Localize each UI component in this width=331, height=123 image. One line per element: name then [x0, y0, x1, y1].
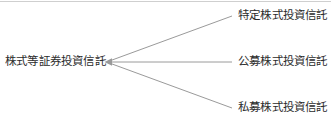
- root-node-label: 株式等証券投資信託: [5, 55, 106, 68]
- child-node-label-private-placement-stock-investment-trust: 私募株式投資信託: [238, 101, 328, 114]
- connector-line-to-child-2: [108, 63, 232, 109]
- connector-line-to-child-0: [108, 16, 232, 62]
- child-node-label-specified-stock-investment-trust: 特定株式投資信託: [238, 9, 328, 22]
- diagram-canvas: 株式等証券投資信託 特定株式投資信託 公募株式投資信託 私募株式投資信託: [0, 0, 331, 123]
- child-node-label-public-offering-stock-investment-trust: 公募株式投資信託: [238, 55, 328, 68]
